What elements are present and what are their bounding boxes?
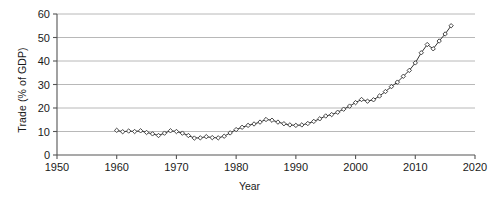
data-point-marker [138, 129, 142, 133]
data-point-marker [132, 129, 136, 133]
data-point-marker [365, 99, 369, 103]
data-point-marker [312, 119, 316, 123]
trade-gdp-line-chart: 0102030405060195019601970198019902000201… [0, 0, 499, 202]
data-point-marker [335, 110, 339, 114]
x-axis-title: Year [0, 180, 499, 192]
data-point-marker [288, 123, 292, 127]
data-point-marker [252, 122, 256, 126]
y-tick-label-20: 20 [38, 102, 50, 114]
y-tick-label-0: 0 [44, 149, 50, 161]
data-point-marker [359, 97, 363, 101]
data-point-marker [306, 121, 310, 125]
x-tick-label-1970: 1970 [164, 161, 188, 173]
x-tick-label-1980: 1980 [224, 161, 248, 173]
data-point-marker [192, 136, 196, 140]
data-point-marker [329, 112, 333, 116]
data-point-marker [126, 129, 130, 133]
x-tick-label-2020: 2020 [463, 161, 487, 173]
x-tick-label-2000: 2000 [343, 161, 367, 173]
data-point-marker [216, 136, 220, 140]
data-point-marker [144, 130, 148, 134]
data-point-marker [156, 133, 160, 137]
data-point-marker [276, 120, 280, 124]
chart-plot-area: 0102030405060195019601970198019902000201… [0, 0, 499, 202]
data-point-marker [198, 136, 202, 140]
data-point-marker [282, 122, 286, 126]
data-point-marker [150, 132, 154, 136]
data-point-marker [294, 123, 298, 127]
y-tick-label-50: 50 [38, 32, 50, 44]
y-tick-label-60: 60 [38, 8, 50, 20]
data-point-marker [300, 123, 304, 127]
data-point-marker [318, 117, 322, 121]
data-point-marker [258, 120, 262, 124]
x-tick-label-1960: 1960 [104, 161, 128, 173]
data-point-marker [174, 129, 178, 133]
data-point-marker [324, 114, 328, 118]
data-point-marker [204, 134, 208, 138]
x-tick-label-2010: 2010 [403, 161, 427, 173]
data-point-marker [120, 130, 124, 134]
data-point-marker [270, 118, 274, 122]
data-point-marker [240, 125, 244, 129]
data-point-marker [264, 117, 268, 121]
y-tick-label-10: 10 [38, 126, 50, 138]
data-point-marker [246, 123, 250, 127]
data-point-marker [353, 100, 357, 104]
data-point-marker [210, 135, 214, 139]
y-axis-title: Trade (% of GDP) [16, 20, 28, 160]
y-tick-label-40: 40 [38, 55, 50, 67]
data-point-marker [186, 133, 190, 137]
y-tick-label-30: 30 [38, 79, 50, 91]
data-point-marker [222, 134, 226, 138]
x-tick-label-1990: 1990 [284, 161, 308, 173]
x-tick-label-1950: 1950 [45, 161, 69, 173]
data-point-marker [168, 129, 172, 133]
